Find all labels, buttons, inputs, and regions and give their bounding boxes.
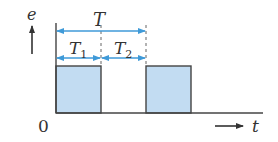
pulse-1 — [56, 66, 101, 113]
period-label: T — [93, 9, 107, 30]
on-time-label: T1 — [69, 38, 87, 61]
x-axis-label: t — [252, 116, 259, 136]
origin-label: 0 — [38, 116, 49, 136]
y-axis-label: e — [27, 5, 36, 24]
pulse-diagram: T T1 T2 e 0 t — [0, 0, 278, 142]
off-time-label: T2 — [114, 38, 132, 61]
pulse-2 — [146, 66, 191, 113]
